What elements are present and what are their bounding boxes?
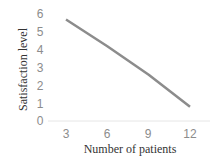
y-tick-5: 5: [30, 26, 50, 38]
x-tick-12: 12: [175, 128, 205, 140]
x-axis-label: Number of patients: [60, 142, 200, 157]
y-tick-1: 1: [30, 98, 50, 110]
y-tick-6: 6: [30, 8, 50, 20]
y-tick-2: 2: [30, 80, 50, 92]
x-tick-9: 9: [133, 128, 163, 140]
x-tick-6: 6: [92, 128, 122, 140]
y-tick-0: 0: [30, 115, 50, 127]
x-tick-3: 3: [51, 128, 81, 140]
y-axis-label: Satisfaction level: [16, 15, 31, 125]
y-tick-4: 4: [30, 44, 50, 56]
series-line: [66, 20, 190, 107]
y-tick-3: 3: [30, 62, 50, 74]
